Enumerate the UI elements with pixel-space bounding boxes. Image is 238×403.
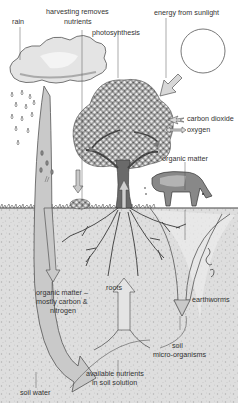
- goat-icon: [144, 172, 212, 206]
- label-micro-organisms: micro-organisms: [153, 351, 206, 359]
- label-harvesting-line1: harvesting removes: [46, 8, 109, 16]
- label-oxygen: oxygen: [187, 126, 210, 134]
- oxygen-arrow: [166, 127, 186, 133]
- label-organic-matter-line3: nitrogen: [50, 307, 76, 315]
- cloud-icon: [10, 35, 107, 83]
- label-harvesting-line2: nutrients: [64, 18, 92, 26]
- label-roots: roots: [106, 284, 122, 292]
- label-soil: soil: [172, 342, 183, 350]
- label-organic-matter-top: organic matter: [162, 155, 208, 163]
- label-in-soil-solution: in soil solution: [92, 379, 137, 387]
- label-earthworms: earthworms: [192, 296, 230, 304]
- sun-icon: [181, 29, 225, 73]
- label-energy-from-sunlight: energy from sunlight: [154, 9, 219, 17]
- label-rain: rain: [12, 18, 24, 26]
- label-carbon-dioxide: carbon dioxide: [187, 115, 234, 123]
- leaf-litter-icon: [70, 170, 90, 209]
- sunlight-arrow: [160, 74, 182, 96]
- label-photosynthesis: photosynthesis: [92, 29, 140, 37]
- nutrient-cycle-diagram: rain harvesting removes nutrients photos…: [0, 0, 238, 403]
- diagram-artwork: [0, 0, 238, 403]
- label-organic-matter-line2: mostly carbon &: [36, 298, 88, 306]
- label-available-nutrients: available nutrients: [86, 370, 144, 378]
- label-organic-matter-line1: organic matter –: [36, 289, 88, 297]
- rain-drops-icon: [11, 90, 35, 145]
- label-soil-water: soil water: [20, 389, 50, 397]
